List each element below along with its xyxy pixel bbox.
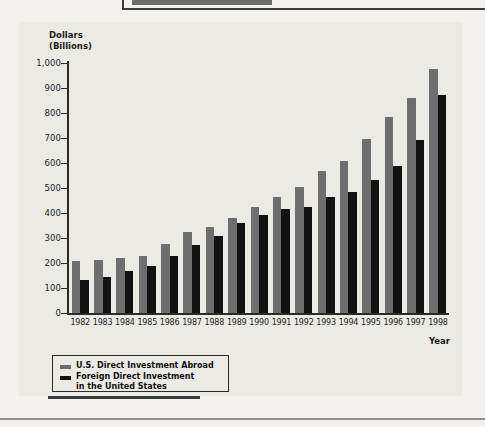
y-tick-label: 800 (21, 108, 61, 118)
bar-gray (385, 117, 394, 313)
x-tick-label: 1992 (293, 318, 315, 327)
x-tick-label: 1990 (248, 318, 270, 327)
bar-group (114, 63, 136, 313)
x-tick-label: 1994 (337, 318, 359, 327)
bar-black (170, 256, 179, 313)
legend-swatch-icon-gray (60, 365, 71, 369)
x-tick-label: 1984 (114, 318, 136, 327)
bar-group (158, 63, 180, 313)
x-axis-title: Year (429, 336, 450, 346)
bar-gray (295, 187, 304, 313)
bar-series-container (69, 63, 449, 313)
bar-black (326, 197, 335, 313)
x-axis-line (67, 313, 449, 315)
y-tick-mark (61, 188, 68, 189)
chart-figure: Dollars (Billions) 1,0009008007006005004… (19, 22, 462, 396)
y-tick-mark (61, 213, 68, 214)
legend-item-foreign-direct-investment-us: Foreign Direct Investment in the United … (60, 372, 221, 392)
bar-group (427, 63, 449, 313)
bar-gray (318, 171, 327, 314)
bar-black (214, 236, 223, 314)
bar-group (382, 63, 404, 313)
legend-label-2: Foreign Direct Investment in the United … (76, 372, 194, 392)
y-tick-label: 600 (21, 158, 61, 168)
y-tick-mark (61, 138, 68, 139)
y-tick-mark (61, 288, 68, 289)
bar-gray (72, 261, 81, 313)
x-tick-label: 1993 (315, 318, 337, 327)
y-tick-mark (61, 263, 68, 264)
x-tick-label: 1986 (158, 318, 180, 327)
bar-gray (116, 258, 125, 313)
bar-gray (183, 232, 192, 313)
x-axis-tick-labels: 1982198319841985198619871988198919901991… (69, 318, 449, 327)
bar-black (416, 140, 425, 313)
bar-gray (407, 98, 416, 314)
bar-group (248, 63, 270, 313)
bar-gray (228, 218, 237, 314)
page-rule-top (122, 8, 485, 10)
bar-gray (206, 227, 215, 313)
y-axis-tick-labels: 1,0009008007006005004003002001000 (19, 22, 61, 396)
x-tick-label: 1985 (136, 318, 158, 327)
chart-legend: U.S. Direct Investment Abroad Foreign Di… (52, 355, 229, 392)
bar-gray (362, 139, 371, 314)
bar-gray (251, 207, 260, 313)
y-tick-label: 500 (21, 183, 61, 193)
legend-label-1: U.S. Direct Investment Abroad (76, 361, 214, 371)
y-tick-mark (61, 63, 68, 64)
x-tick-label: 1996 (382, 318, 404, 327)
x-tick-label: 1989 (226, 318, 248, 327)
bar-black (304, 207, 313, 313)
bar-black (192, 245, 201, 313)
y-tick-label: 200 (21, 258, 61, 268)
bar-gray (139, 256, 148, 314)
y-tick-mark (61, 313, 68, 314)
bar-group (315, 63, 337, 313)
bar-gray (273, 197, 282, 313)
bar-group (136, 63, 158, 313)
bar-black (147, 266, 156, 314)
y-tick-mark (61, 113, 68, 114)
bar-black (348, 192, 357, 313)
bar-gray (340, 161, 349, 314)
x-tick-label: 1997 (404, 318, 426, 327)
x-tick-label: 1988 (203, 318, 225, 327)
legend-item-us-direct-investment-abroad: U.S. Direct Investment Abroad (60, 361, 221, 371)
y-tick-mark (61, 88, 68, 89)
x-tick-label: 1998 (427, 318, 449, 327)
x-tick-label: 1995 (360, 318, 382, 327)
bar-black (371, 180, 380, 313)
y-tick-label: 400 (21, 208, 61, 218)
bar-group (337, 63, 359, 313)
bar-group (69, 63, 91, 313)
x-tick-label: 1991 (270, 318, 292, 327)
y-tick-label: 900 (21, 83, 61, 93)
page-rule-bottom (0, 418, 485, 420)
bar-gray (94, 260, 103, 313)
bar-black (259, 215, 268, 313)
y-tick-label: 1,000 (21, 58, 61, 68)
bar-black (237, 223, 246, 314)
bar-black (393, 166, 402, 314)
bar-gray (161, 244, 170, 313)
bar-group (404, 63, 426, 313)
x-tick-label: 1983 (91, 318, 113, 327)
bar-black (281, 209, 290, 313)
x-tick-label: 1982 (69, 318, 91, 327)
bar-black (438, 95, 447, 313)
x-tick-label: 1987 (181, 318, 203, 327)
y-tick-label: 100 (21, 283, 61, 293)
bar-group (293, 63, 315, 313)
y-tick-label: 700 (21, 133, 61, 143)
bar-black (125, 271, 134, 314)
bar-group (203, 63, 225, 313)
y-tick-label: 300 (21, 233, 61, 243)
bar-gray (429, 69, 438, 314)
bar-group (360, 63, 382, 313)
bar-group (181, 63, 203, 313)
bar-black (103, 277, 112, 313)
bar-group (91, 63, 113, 313)
legend-swatch-icon-black (60, 376, 71, 380)
y-tick-label: 0 (21, 308, 61, 318)
